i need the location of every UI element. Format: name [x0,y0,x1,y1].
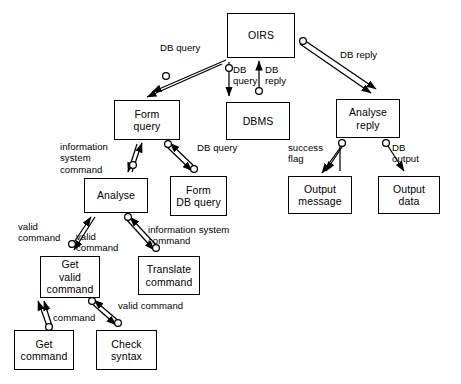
node-output-message-label: Output message [296,183,343,208]
edge-label-db-output: DB output [392,142,434,165]
node-dbms-label: DBMS [241,115,276,128]
node-form-db-query[interactable]: Form DB query [170,176,227,216]
node-get-valid-command[interactable]: Get valid command [40,256,100,298]
node-form-query-label: Form query [132,108,163,133]
edge-label-db-query-oirs-dbms: DB query [233,64,267,87]
edge-oirs-to-form-query [147,60,226,97]
node-translate-command-label: Translate command [144,263,195,288]
node-dbms[interactable]: DBMS [226,102,290,140]
edge-label-valid-command-check-syntax: valid command [118,300,208,311]
node-oirs-label: OIRS [246,29,276,42]
node-form-db-query-label: Form DB query [174,184,223,209]
node-get-valid-command-label: Get valid command [45,258,96,296]
edge-label-command-get-command: command [53,312,111,323]
node-output-message[interactable]: Output message [288,176,352,214]
node-output-data[interactable]: Output data [378,176,440,214]
edge-label-db-reply-oirs-analyse-reply: DB reply [340,49,396,60]
edge-oirs-to-analyse-reply [300,38,376,93]
edge-label-valid-command-middle: valid command [76,231,138,254]
edge-label-db-query-form-db-query: DB query [197,142,253,153]
edge-label-db-reply-dbms-oirs: DB reply [265,64,299,87]
node-analyse-reply[interactable]: Analyse reply [336,99,400,138]
node-oirs[interactable]: OIRS [227,13,295,58]
node-translate-command[interactable]: Translate command [138,256,200,295]
node-analyse[interactable]: Analyse [84,178,148,213]
edge-label-valid-command-left: valid command [18,221,80,244]
edge-form-query-to-analyse [128,143,142,172]
node-analyse-reply-label: Analyse reply [347,106,389,131]
node-check-syntax[interactable]: Check syntax [96,330,157,370]
node-output-data-label: Output data [391,183,427,208]
edge-oirs-to-dbms-db-query [226,62,233,96]
edge-label-information-system-command-form-query: information system command [60,141,124,175]
edge-form-query-to-form-db-query [165,141,198,173]
edge-label-information-system-command-translate: information system command [148,224,242,247]
node-check-syntax-label: Check syntax [109,338,144,363]
node-form-query[interactable]: Form query [114,100,180,140]
edge-get-command-to-get-valid-command [38,301,52,330]
diagram-canvas: OIRS Form query DBMS Analyse reply Analy… [0,0,461,384]
edge-label-success-flag: success flag [288,142,334,165]
node-analyse-label: Analyse [95,189,137,202]
edge-label-db-query-oirs-form-query: DB query [160,42,216,53]
node-get-command[interactable]: Get command [14,330,74,370]
node-get-command-label: Get command [19,338,70,363]
